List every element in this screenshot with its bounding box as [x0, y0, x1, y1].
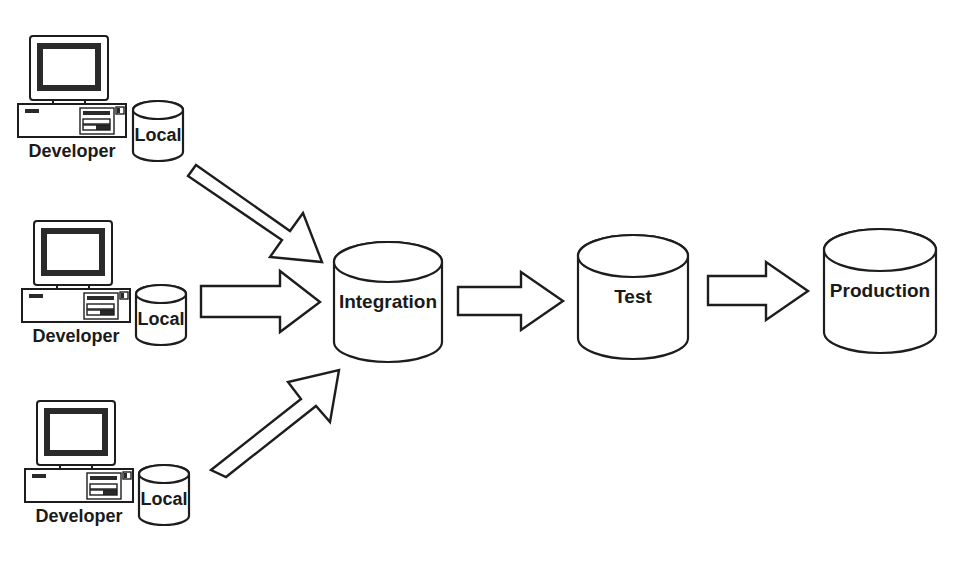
arrow-integration-to-test: [458, 272, 563, 330]
computer-icon: [22, 221, 130, 322]
arrow-bottom-to-integration: [211, 370, 339, 477]
arrow-top-to-integration: [188, 165, 322, 262]
computer-icon: [18, 36, 126, 137]
local-label-middle: Local: [137, 309, 184, 329]
local-label-bottom: Local: [140, 489, 187, 509]
developer-group-middle[interactable]: Developer Local: [22, 221, 186, 346]
diagram-canvas: Developer Local: [0, 0, 979, 564]
developer-group-bottom[interactable]: Developer Local: [25, 401, 189, 526]
arrow-middle-to-integration: [201, 271, 320, 332]
arrow-test-to-production: [708, 262, 808, 320]
integration-label: Integration: [339, 291, 437, 312]
developer-group-top[interactable]: Developer Local: [18, 36, 183, 161]
developer-label-top: Developer: [28, 141, 115, 161]
diagram-svg: Developer Local: [0, 0, 979, 564]
local-label-top: Local: [134, 125, 181, 145]
developer-label-middle: Developer: [32, 326, 119, 346]
production-label: Production: [830, 280, 930, 301]
test-label: Test: [614, 286, 652, 307]
developer-label-bottom: Developer: [35, 506, 122, 526]
computer-icon: [25, 401, 133, 502]
